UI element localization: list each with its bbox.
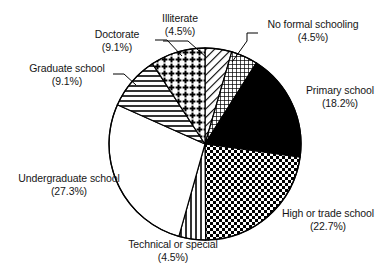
slice-label-primary-school-pct: (18.2%) <box>296 97 384 110</box>
slice-label-graduate-school: Graduate school (9.1%) <box>6 62 128 87</box>
slice-label-undergraduate-school-pct: (27.3%) <box>4 185 134 198</box>
slice-label-no-formal-schooling-pct: (4.5%) <box>248 31 378 44</box>
slice-label-undergraduate-school: Undergraduate school (27.3%) <box>4 172 134 197</box>
pie-chart: Illiterate (4.5%) No formal schooling (4… <box>0 0 384 275</box>
slice-label-high-or-trade-school: High or trade school (22.7%) <box>272 207 384 232</box>
slice-label-doctorate: Doctorate (9.1%) <box>72 28 162 53</box>
slice-label-doctorate-pct: (9.1%) <box>72 41 162 54</box>
slice-label-primary-school-name: Primary school <box>306 84 374 96</box>
slice-label-no-formal-schooling-name: No formal schooling <box>268 18 359 30</box>
slice-label-illiterate-name: Illiterate <box>162 12 198 24</box>
slice-label-doctorate-name: Doctorate <box>95 28 140 40</box>
slice-label-graduate-school-pct: (9.1%) <box>6 75 128 88</box>
slice-label-undergraduate-school-name: Undergraduate school <box>18 172 119 184</box>
slice-label-graduate-school-name: Graduate school <box>29 62 105 74</box>
slice-label-primary-school: Primary school (18.2%) <box>296 84 384 109</box>
slice-label-technical-or-special-name: Technical or special <box>128 238 218 250</box>
slice-label-technical-or-special-pct: (4.5%) <box>108 251 238 264</box>
slice-label-high-or-trade-school-pct: (22.7%) <box>272 220 384 233</box>
slice-label-technical-or-special: Technical or special (4.5%) <box>108 238 238 263</box>
slice-label-high-or-trade-school-name: High or trade school <box>282 207 374 219</box>
slice-label-no-formal-schooling: No formal schooling (4.5%) <box>248 18 378 43</box>
